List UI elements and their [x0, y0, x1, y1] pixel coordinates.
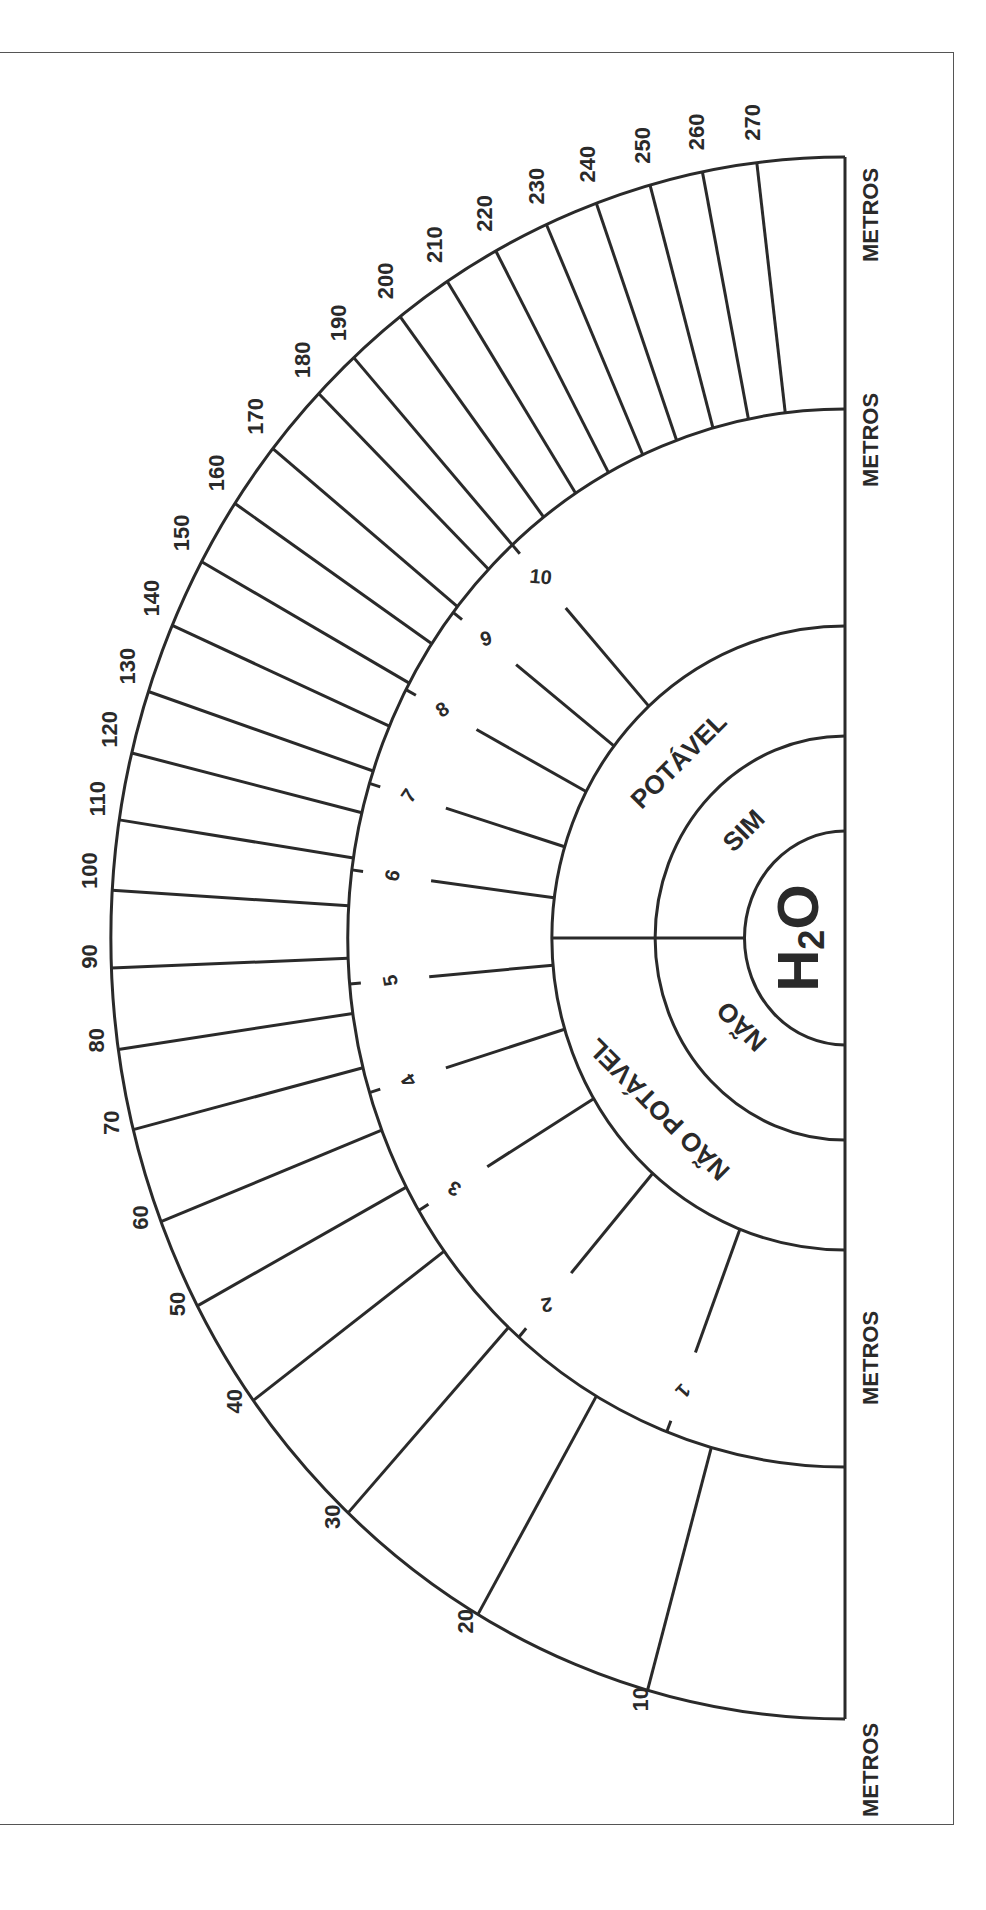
distance-label: 230: [524, 168, 549, 205]
distance-spoke: [400, 317, 544, 517]
scale-spoke: [476, 730, 586, 792]
scale-spoke: [516, 665, 614, 746]
distance-spoke: [348, 1327, 508, 1512]
distance-label: 10: [628, 1687, 653, 1711]
distance-label: 110: [85, 781, 110, 817]
scale-label: 7: [396, 785, 420, 807]
distance-label: 200: [373, 263, 398, 300]
distance-spoke: [354, 358, 513, 545]
distance-spoke: [197, 1187, 406, 1306]
distance-label: 210: [422, 226, 447, 263]
scale-tick: [453, 612, 462, 619]
distance-label: 150: [169, 514, 194, 551]
distance-spoke: [702, 172, 748, 419]
distance-spoke: [111, 958, 348, 968]
scale-spoke: [695, 1229, 739, 1352]
ring-label: NÃO POTÁVEL: [581, 1032, 735, 1186]
metros-label: METROS: [858, 1723, 883, 1817]
distance-spoke: [112, 890, 348, 905]
distance-spoke: [132, 753, 362, 813]
distance-label: 70: [99, 1110, 124, 1134]
distance-label: 260: [684, 114, 709, 151]
scale-tick: [369, 1089, 380, 1093]
distance-spoke: [496, 251, 609, 473]
h2o-title: H2O: [765, 884, 832, 991]
distance-spoke: [202, 562, 410, 683]
scale-tick: [350, 983, 361, 984]
distance-label: 130: [115, 648, 140, 685]
scale-label: 2: [540, 1293, 554, 1316]
distance-label: 20: [453, 1609, 478, 1633]
distance-label: 180: [290, 341, 315, 378]
distance-spoke: [235, 504, 432, 644]
scale-tick: [352, 870, 363, 872]
scale-spoke: [571, 1173, 652, 1273]
labels-group: 1020304050607080901001101201301401501601…: [77, 104, 883, 1817]
scale-tick: [369, 783, 380, 787]
scale-label: 4: [396, 1069, 421, 1091]
ring-label: NÃO: [710, 995, 772, 1057]
scale-spoke: [446, 808, 565, 847]
scale-tick: [419, 1204, 429, 1210]
distance-spoke: [546, 225, 642, 455]
distance-spoke: [133, 1068, 363, 1130]
distance-label: 270: [740, 104, 765, 141]
ring-label: SIM: [717, 804, 771, 858]
scale-tick: [406, 690, 416, 696]
scale-spoke: [487, 1099, 593, 1167]
distance-label: 80: [84, 1028, 109, 1052]
scale-spoke: [446, 1029, 565, 1068]
distance-label: 50: [165, 1292, 190, 1316]
metros-label: METROS: [858, 168, 883, 262]
distance-label: 30: [320, 1505, 345, 1529]
scale-label: 10: [529, 565, 553, 589]
spokes-group: [111, 157, 845, 1719]
scale-tick: [519, 1328, 526, 1337]
distance-spoke: [273, 449, 458, 607]
scale-label: 3: [444, 1176, 464, 1201]
distance-spoke: [648, 1448, 712, 1691]
distance-label: 90: [77, 944, 102, 968]
distance-label: 40: [222, 1389, 247, 1413]
scale-label: 6: [380, 867, 404, 883]
metros-label: METROS: [858, 393, 883, 487]
distance-spoke: [253, 1251, 444, 1400]
scale-tick: [512, 545, 520, 554]
distance-spoke: [118, 1013, 352, 1049]
distance-spoke: [319, 394, 489, 570]
scale-label: 1: [671, 1380, 695, 1403]
distance-label: 220: [472, 195, 497, 232]
scale-label: 9: [478, 626, 494, 650]
distance-label: 120: [97, 711, 122, 748]
distance-label: 100: [77, 852, 102, 889]
ring-label: POTÁVEL: [624, 706, 732, 814]
distance-label: 160: [204, 455, 229, 492]
distance-spoke: [161, 1130, 382, 1222]
scale-spoke: [429, 965, 553, 977]
scale-tick: [667, 1421, 671, 1432]
distance-spoke: [119, 820, 353, 858]
metros-label: METROS: [858, 1311, 883, 1405]
distance-label: 190: [326, 305, 351, 342]
scale-spoke: [431, 881, 554, 898]
scale-label: 8: [432, 697, 454, 721]
distance-spoke: [447, 282, 575, 494]
water-distance-diagram: 1020304050607080901001101201301401501601…: [0, 0, 986, 1910]
scale-spoke: [566, 608, 649, 706]
distance-label: 170: [243, 398, 268, 435]
distance-spoke: [478, 1396, 596, 1614]
distance-label: 240: [575, 146, 600, 183]
scale-label: 5: [378, 973, 402, 988]
distance-label: 140: [139, 580, 164, 617]
distance-spoke: [757, 163, 785, 413]
distance-label: 250: [630, 127, 655, 164]
distance-label: 60: [128, 1205, 153, 1229]
